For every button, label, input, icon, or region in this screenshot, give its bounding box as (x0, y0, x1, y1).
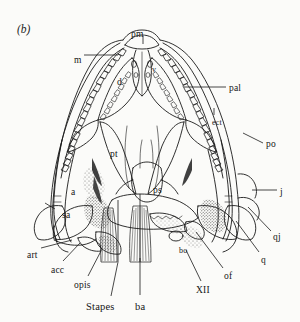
label-XII: XII (196, 286, 210, 296)
label-a: a (71, 188, 75, 198)
parasphenoid-rostrum2 (151, 140, 153, 168)
leader-po (243, 133, 263, 143)
basipterygoid-right (161, 180, 178, 194)
label-bo: bo (179, 247, 187, 255)
quadratojugal-right (238, 197, 259, 220)
label-pm: pm (131, 30, 144, 40)
label-pal: pal (229, 84, 241, 94)
leader-acc (63, 243, 80, 261)
foramen-right (146, 73, 150, 78)
label-qj: qj (273, 233, 281, 243)
label-opis: opis (74, 281, 91, 291)
jaw-notch-left (54, 196, 61, 202)
tooth-row-right-inner (160, 48, 223, 178)
parasphenoid (132, 162, 163, 202)
label-m: m (74, 56, 82, 66)
label-stapes: Stapes (86, 302, 115, 313)
label-sa: sa (62, 211, 70, 221)
stapes-rods (101, 194, 151, 262)
label-ect: ect (212, 119, 222, 127)
parasphenoid-rostrum (140, 140, 142, 168)
label-acc: acc (51, 266, 64, 276)
label-ba: ba (135, 302, 145, 313)
skull-diagram (0, 0, 300, 322)
leader-xii (186, 250, 201, 281)
label-d: d (117, 78, 122, 88)
foramen-left (134, 73, 138, 78)
shade-pterygoid-right (182, 158, 192, 186)
shade-left-jaw-joint (84, 195, 110, 228)
jugal-right (238, 174, 257, 198)
label-ps: ps (153, 186, 162, 196)
pterygoid-right (148, 122, 184, 194)
choana-left (131, 61, 136, 68)
label-po: po (266, 140, 276, 150)
label-of: of (224, 272, 232, 282)
figure-panel: (b) (0, 0, 300, 322)
label-pt: pt (110, 150, 118, 160)
label-v: v (152, 66, 156, 74)
label-art: art (27, 251, 38, 261)
leader-opis (88, 251, 101, 276)
leader-stapes (111, 262, 118, 296)
label-j: j (280, 188, 283, 198)
teeth-right (158, 49, 223, 172)
pterygoid-left (100, 122, 136, 194)
shading (83, 158, 226, 252)
label-q: q (261, 256, 266, 266)
ectopterygoid-left (68, 120, 98, 152)
